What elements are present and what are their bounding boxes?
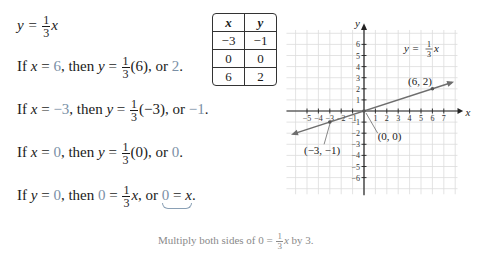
svg-text:1: 1 — [427, 40, 431, 49]
table-header-y: y — [245, 14, 276, 32]
caption: Multiply both sides of 0 = 13x by 3. — [158, 232, 314, 251]
equation-fraction: 13 — [42, 14, 50, 39]
svg-text:1: 1 — [356, 96, 360, 105]
underbrace: 0 = x — [162, 186, 192, 204]
svg-text:5: 5 — [419, 114, 423, 123]
svg-text:(0, 0): (0, 0) — [378, 130, 402, 143]
svg-text:−6: −6 — [351, 174, 360, 183]
step-x-0: If x = 0, then y = 13(0), or 0. — [17, 141, 183, 166]
svg-text:2: 2 — [356, 85, 360, 94]
svg-text:x: x — [464, 106, 470, 118]
table-header-x: x — [213, 14, 245, 32]
svg-text:3: 3 — [427, 50, 431, 59]
step-x-6: If x = 6, then y = 13(6), or 2. — [17, 55, 183, 80]
svg-text:−5: −5 — [303, 114, 312, 123]
svg-text:−4: −4 — [351, 151, 360, 160]
grid — [286, 30, 457, 194]
equation-lhs: y = — [17, 17, 38, 33]
svg-text:7: 7 — [442, 114, 446, 123]
annotations: y =13x(6, 2)(0, 0)(−3, −1) — [304, 40, 439, 157]
svg-text:2: 2 — [385, 114, 389, 123]
line-plot — [291, 81, 454, 135]
svg-text:y =: y = — [403, 42, 419, 54]
svg-text:6: 6 — [430, 114, 434, 123]
svg-text:−1: −1 — [351, 118, 360, 127]
svg-text:−5: −5 — [351, 163, 360, 172]
svg-text:−2: −2 — [351, 129, 360, 138]
svg-text:−4: −4 — [314, 114, 323, 123]
equation: y = 13x — [17, 14, 58, 39]
coordinate-graph: xy −5−4−3−2−11234567654321−1−2−3−4−5−6 y… — [280, 0, 479, 210]
svg-text:6: 6 — [356, 40, 360, 49]
svg-text:3: 3 — [356, 74, 360, 83]
step-x-neg3: If x = −3, then y = 13(−3), or −1. — [17, 98, 209, 123]
table-row: −3−1 — [213, 32, 276, 50]
svg-text:3: 3 — [396, 114, 400, 123]
svg-text:y: y — [354, 17, 360, 29]
equation-var: x — [51, 17, 58, 33]
svg-text:5: 5 — [356, 52, 360, 61]
values-table: x y −3−1 00 62 — [212, 13, 277, 86]
svg-text:4: 4 — [356, 63, 360, 72]
svg-text:x: x — [433, 42, 439, 54]
table-header-row: x y — [213, 14, 276, 32]
table-row: 62 — [213, 68, 276, 85]
table-row: 00 — [213, 50, 276, 68]
svg-text:−3: −3 — [351, 140, 360, 149]
svg-text:(−3, −1): (−3, −1) — [304, 144, 341, 157]
svg-text:4: 4 — [408, 114, 412, 123]
svg-text:(6, 2): (6, 2) — [408, 75, 432, 88]
step-y-0: If y = 0, then 0 = 13x, or 0 = x. — [17, 184, 196, 209]
svg-text:1: 1 — [373, 114, 377, 123]
